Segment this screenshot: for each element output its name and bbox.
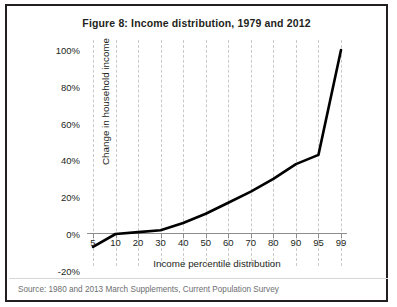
y-tick-label-0: 0% bbox=[66, 229, 80, 240]
source-note: Source: 1980 and 2013 March Supplements,… bbox=[18, 285, 279, 294]
x-tick-label-95: 95 bbox=[313, 237, 324, 248]
x-tick-label-10: 10 bbox=[110, 237, 121, 248]
x-tick-label-50: 50 bbox=[200, 237, 211, 248]
y-tick-label-100: 100% bbox=[56, 45, 80, 56]
x-axis-title: Income percentile distribution bbox=[87, 258, 347, 269]
x-tick-label-60: 60 bbox=[223, 237, 234, 248]
x-tick-label-5: 5 bbox=[90, 237, 95, 248]
x-tick-label-80: 80 bbox=[268, 237, 279, 248]
figure-container: Figure 8: Income distribution, 1979 and … bbox=[0, 0, 397, 307]
chart-canvas: 100%80%60%40%20%0%-20% 51020304050607080… bbox=[7, 6, 390, 278]
x-tick-label-30: 30 bbox=[155, 237, 166, 248]
x-tick-label-99: 99 bbox=[336, 237, 347, 248]
y-axis-title: Change in household income bbox=[100, 22, 111, 182]
x-tick-label-70: 70 bbox=[246, 237, 257, 248]
y-tick-label-20: 20% bbox=[61, 192, 80, 203]
figure-border: Figure 8: Income distribution, 1979 and … bbox=[5, 4, 388, 302]
y-tick-label-neg20: -20% bbox=[58, 265, 80, 276]
plot-area: 100%80%60%40%20%0%-20% 51020304050607080… bbox=[87, 46, 347, 234]
y-tick-label-40: 40% bbox=[61, 155, 80, 166]
data-series-line bbox=[87, 40, 347, 272]
x-tick-label-20: 20 bbox=[133, 237, 144, 248]
y-tick-label-60: 60% bbox=[61, 118, 80, 129]
y-tick-label-80: 80% bbox=[61, 81, 80, 92]
x-tick-label-90: 90 bbox=[291, 237, 302, 248]
footer-divider bbox=[9, 278, 388, 279]
x-tick-label-40: 40 bbox=[178, 237, 189, 248]
